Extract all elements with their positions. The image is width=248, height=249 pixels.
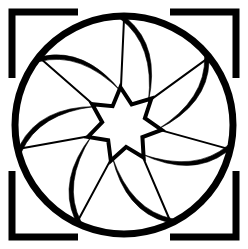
emblem-canvas: Geometric Pinwheel Emblem Black line-art…: [0, 0, 248, 249]
emblem-illustration: Geometric Pinwheel Emblem Black line-art…: [0, 0, 248, 249]
